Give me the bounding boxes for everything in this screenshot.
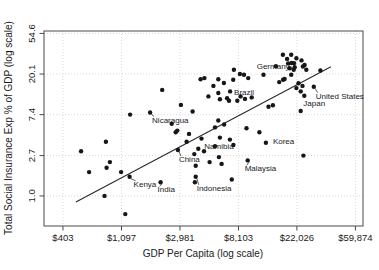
data-point-nicaragua (148, 110, 152, 114)
y-tick-label: 54.6 (26, 24, 37, 43)
data-point (87, 170, 91, 174)
data-point (271, 103, 275, 107)
country-label: Indonesia (197, 184, 232, 193)
x-tick-label: $403 (52, 232, 73, 243)
data-point (294, 56, 298, 60)
data-point (128, 112, 132, 116)
data-point (301, 153, 305, 157)
x-tick-label: $59,874 (338, 232, 372, 243)
y-tick-label: 2.7 (26, 149, 37, 162)
country-label: Korea (273, 137, 295, 146)
country-label: Kenya (134, 180, 157, 189)
data-point (104, 166, 108, 170)
data-point (202, 76, 206, 80)
data-point (213, 125, 217, 129)
data-point (102, 194, 106, 198)
plot-border (44, 31, 363, 226)
data-point (244, 126, 248, 130)
data-point (104, 140, 108, 144)
data-point (242, 73, 246, 77)
data-point (285, 57, 289, 61)
y-axis-title: Total Social Insurance Exp % of GDP (log… (3, 21, 14, 235)
axis-ticks: $403$1,097$2,981$8,103$22,026$59,8741.02… (26, 24, 373, 243)
data-point (219, 162, 223, 166)
data-point (216, 118, 220, 122)
data-point (194, 164, 198, 168)
data-point-china (176, 148, 180, 152)
data-point (299, 109, 303, 113)
data-point-indonesia (194, 175, 198, 179)
data-point (79, 149, 83, 153)
y-tick-label: 20.1 (26, 65, 37, 84)
data-point (218, 97, 222, 101)
country-label: India (158, 185, 176, 194)
y-tick-label: 7.4 (26, 108, 37, 121)
data-point (198, 77, 202, 81)
data-point (282, 77, 286, 81)
data-point (318, 68, 322, 72)
data-point (190, 109, 194, 113)
data-point (216, 77, 220, 81)
country-label: Japan (303, 99, 325, 108)
data-point (261, 73, 265, 77)
data-point (222, 122, 226, 126)
data-point (277, 80, 281, 84)
data-point (257, 130, 261, 134)
data-point (227, 99, 231, 103)
data-point (119, 170, 123, 174)
data-point (108, 160, 112, 164)
country-label: Brazil (234, 88, 254, 97)
trend-line-layer (76, 67, 331, 202)
data-point (235, 99, 239, 103)
x-axis-title: GDP Per Capita (log scale) (143, 248, 263, 259)
data-point (299, 58, 303, 62)
data-point (301, 64, 305, 68)
scatter-plot-figure: $403$1,097$2,981$8,103$22,026$59,8741.02… (0, 0, 379, 270)
data-point (281, 53, 285, 57)
y-tick-label: 1.0 (26, 189, 37, 202)
data-point (304, 68, 308, 72)
data-point (289, 73, 293, 77)
country-label: Germany (257, 62, 290, 71)
data-point (211, 84, 215, 88)
country-label: China (179, 155, 200, 164)
data-point (289, 53, 293, 57)
data-point-kenya (127, 175, 131, 179)
country-label: Malaysia (245, 164, 277, 173)
data-point (230, 177, 234, 181)
trend-line (76, 67, 331, 202)
data-point (175, 128, 179, 132)
data-point-brazil (228, 89, 232, 93)
data-point (231, 78, 235, 82)
data-point-malaysia (246, 158, 250, 162)
data-point-korea (264, 141, 268, 145)
data-point (232, 68, 236, 72)
data-point (123, 212, 127, 216)
x-tick-label: $22,026 (280, 232, 314, 243)
country-label: Nicaragua (152, 116, 189, 125)
x-tick-label: $8,103 (224, 232, 253, 243)
data-point (266, 105, 270, 109)
data-point (207, 160, 211, 164)
grid-lines (44, 31, 363, 226)
data-point (294, 86, 298, 90)
data-point (246, 76, 250, 80)
data-point (206, 94, 210, 98)
data-point-united-states (312, 85, 316, 89)
data-point (184, 140, 188, 144)
scatter-chart: $403$1,097$2,981$8,103$22,026$59,8741.02… (0, 0, 379, 270)
data-point (300, 84, 304, 88)
data-point (292, 68, 296, 72)
data-point-japan (302, 94, 306, 98)
data-point (296, 81, 300, 85)
data-point (218, 135, 222, 139)
data-point (187, 132, 191, 136)
data-point (222, 81, 226, 85)
data-point-germany (289, 61, 293, 65)
x-tick-label: $1,097 (107, 232, 136, 243)
data-point (216, 91, 220, 95)
data-point-india (158, 180, 162, 184)
data-point (238, 72, 242, 76)
data-point (299, 89, 303, 93)
x-tick-label: $2,981 (165, 232, 194, 243)
